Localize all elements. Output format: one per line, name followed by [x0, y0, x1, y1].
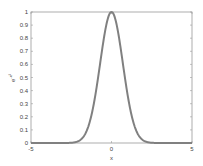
- x-tick-label: -5: [28, 146, 34, 152]
- y-tick-label: 1: [25, 9, 29, 15]
- x-tick-label: 0: [110, 146, 114, 152]
- x-axis-label: x: [110, 155, 113, 161]
- gaussian-curve: [31, 12, 192, 143]
- y-tick-label: 0.4: [20, 88, 29, 94]
- y-tick-label: 0.5: [20, 75, 29, 81]
- y-axis-label: e-x²: [8, 73, 16, 82]
- y-tick-label: 0.8: [20, 35, 29, 41]
- y-tick-label: 0.2: [20, 114, 29, 120]
- y-tick-label: 0.3: [20, 101, 29, 107]
- plot-frame: [31, 12, 192, 143]
- y-tick-label: 0.1: [20, 127, 29, 133]
- x-axis-ticks: -505: [28, 12, 194, 152]
- y-axis-label-exponent: -x²: [8, 73, 13, 78]
- x-tick-label: 5: [190, 146, 194, 152]
- y-tick-label: 0.6: [20, 61, 29, 67]
- y-tick-label: 0.7: [20, 48, 29, 54]
- axes-box: [31, 12, 192, 143]
- y-tick-label: 0.9: [20, 22, 29, 28]
- gaussian-line-chart: 00.10.20.30.40.50.60.70.80.91 -505 x e-x…: [0, 0, 203, 166]
